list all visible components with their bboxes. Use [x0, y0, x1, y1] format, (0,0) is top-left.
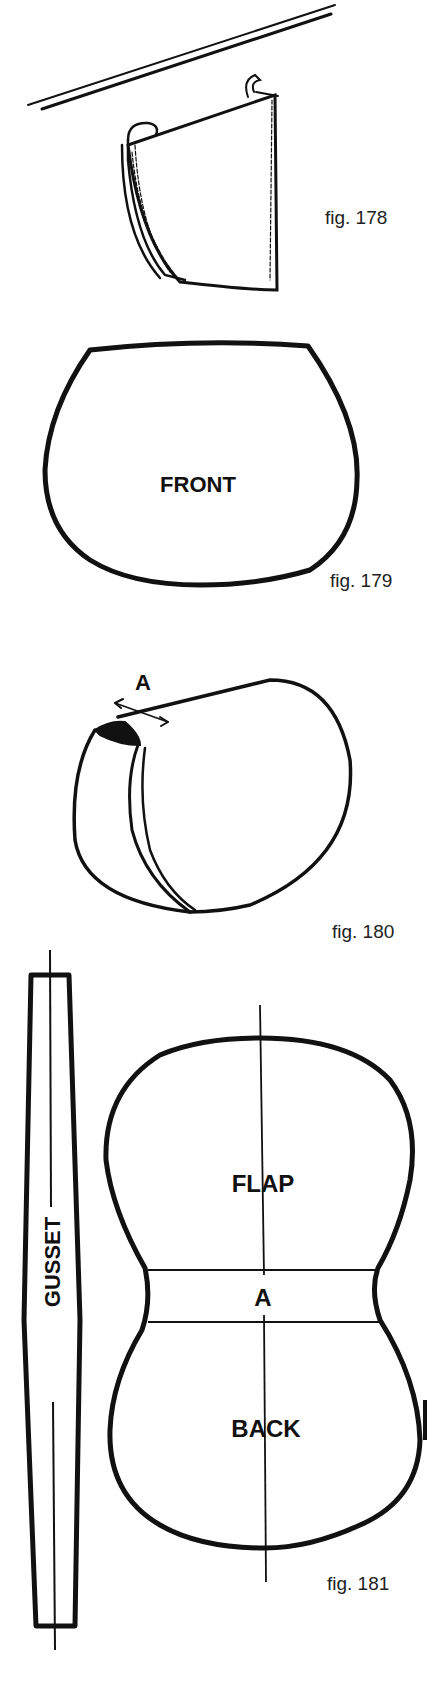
fig-178-pouch-on-rod: [28, 5, 335, 290]
pattern-illustration-page: fig. 178 FRONT fig. 179 A fig. 180 GUSSE…: [0, 0, 427, 1681]
fig-180-caption: fig. 180: [332, 921, 394, 942]
fig-181-label-a: A: [254, 1284, 271, 1311]
fig-181-caption: fig. 181: [327, 1573, 389, 1594]
fig-181-label-gusset: GUSSET: [40, 1216, 65, 1307]
fig-181-label-back: BACK: [231, 1415, 301, 1442]
fig-180-label-a: A: [135, 670, 151, 695]
edge-smudge: [423, 1400, 427, 1440]
fig-180-rolled-pouch: [74, 680, 350, 912]
fig-181-label-flap: FLAP: [232, 1170, 295, 1197]
fig-179-caption: fig. 179: [330, 570, 392, 591]
fig-178-caption: fig. 178: [325, 207, 387, 228]
fig-179-front-shape: [45, 343, 357, 585]
fig-179-label-front: FRONT: [160, 472, 236, 497]
